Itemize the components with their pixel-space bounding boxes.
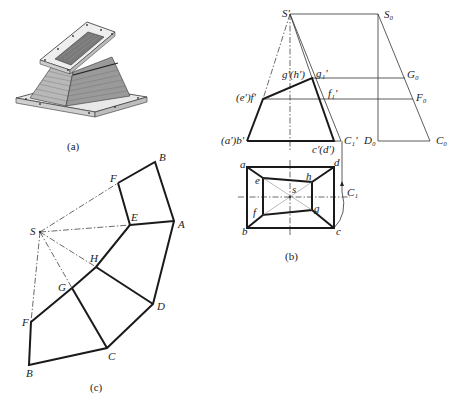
label-c: c bbox=[336, 225, 341, 237]
top-view-inner-quad bbox=[263, 178, 312, 215]
label-f: f bbox=[253, 206, 258, 218]
figure-canvas: (a) bbox=[0, 0, 458, 403]
line-s0-c0 bbox=[378, 14, 430, 141]
label-F-bottom: F bbox=[21, 316, 29, 328]
edge-d-h bbox=[312, 167, 334, 182]
label-e-f: (e')f' bbox=[236, 91, 257, 104]
label-h: h bbox=[306, 170, 312, 182]
label-s: s bbox=[292, 183, 296, 195]
panel-c-labels: S F B E A H G D F C B bbox=[21, 151, 185, 379]
line-s-f-dashed bbox=[263, 14, 290, 99]
panel-b-projections bbox=[238, 14, 430, 235]
label-s0: S₀ bbox=[384, 8, 394, 20]
label-c1-prime: C₁' bbox=[344, 134, 358, 146]
label-B-top: B bbox=[159, 151, 166, 163]
label-D: D bbox=[156, 300, 165, 312]
label-d0: D₀ bbox=[363, 134, 376, 146]
ray-s-f-top bbox=[40, 183, 118, 232]
fold-g-c bbox=[72, 288, 107, 348]
label-a: a bbox=[240, 158, 246, 170]
label-f1: f₁' bbox=[328, 87, 338, 99]
label-a-b: (a')b' bbox=[221, 134, 245, 147]
apex-s-point bbox=[289, 196, 292, 199]
label-C: C bbox=[108, 350, 116, 362]
label-c-d: c'(d') bbox=[312, 143, 335, 156]
apex-point bbox=[39, 231, 41, 233]
diag-e-g bbox=[263, 178, 312, 210]
label-g1: g₁' bbox=[316, 67, 328, 79]
label-g-h: g'(h') bbox=[282, 68, 305, 81]
panel-a-3d-duct bbox=[16, 22, 147, 117]
arrow-up-icon bbox=[340, 181, 344, 186]
label-c1: C₁ bbox=[347, 186, 358, 198]
label-s-prime: S' bbox=[282, 7, 291, 19]
caption-a: (a) bbox=[67, 140, 80, 153]
ray-s-h bbox=[40, 232, 96, 267]
caption-c: (c) bbox=[90, 381, 103, 394]
label-H: H bbox=[89, 252, 99, 264]
ray-s-f-bottom bbox=[31, 232, 40, 322]
label-e: e bbox=[255, 174, 260, 186]
front-view-outline bbox=[247, 78, 334, 141]
label-g0: G₀ bbox=[407, 68, 419, 80]
label-G: G bbox=[58, 281, 66, 293]
label-c0: C₀ bbox=[436, 134, 447, 146]
label-S: S bbox=[30, 225, 36, 237]
label-B-bottom: B bbox=[26, 367, 33, 379]
label-A: A bbox=[177, 218, 185, 230]
label-b: b bbox=[242, 225, 248, 237]
label-d: d bbox=[334, 156, 340, 168]
caption-b: (b) bbox=[285, 250, 298, 263]
fold-h-d bbox=[96, 267, 153, 304]
label-f0: F₀ bbox=[415, 91, 427, 103]
label-g: g bbox=[314, 202, 320, 214]
development-outline bbox=[29, 162, 174, 365]
panel-c-development bbox=[29, 162, 174, 365]
ray-s-g bbox=[40, 232, 72, 288]
label-F-top: F bbox=[109, 172, 117, 184]
label-E: E bbox=[130, 211, 138, 223]
ray-s-e bbox=[40, 225, 130, 232]
